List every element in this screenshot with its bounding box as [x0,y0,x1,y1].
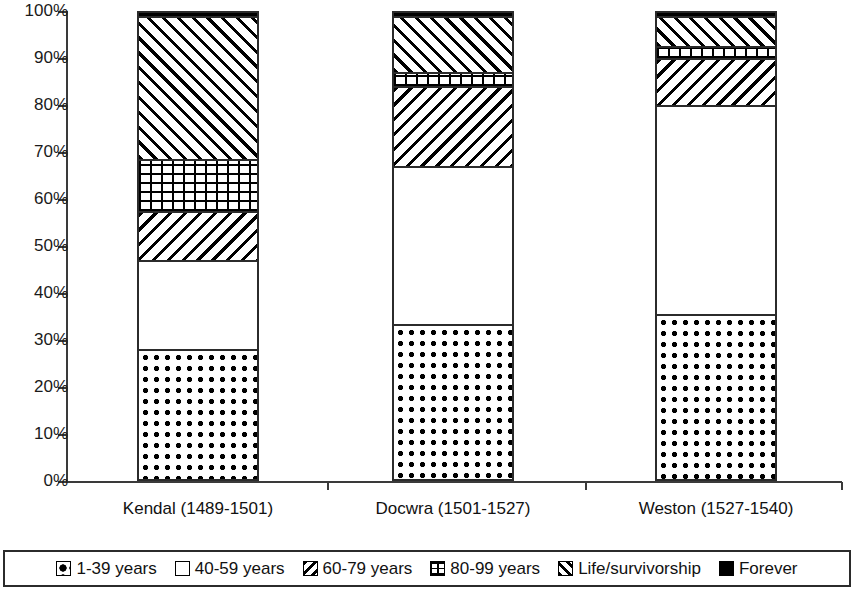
bar-segment [392,11,514,16]
y-tick-label: 40% [14,284,68,301]
bar-segment [655,46,777,58]
bar-segment [655,105,777,314]
x-axis-line [66,481,842,483]
bar-segment [392,72,514,86]
legend-label: 1-39 years [76,560,156,577]
bar-segment [392,86,514,166]
bar-segment [392,166,514,324]
legend-label: Life/survivorship [578,560,701,577]
x-tick-mark [327,482,329,490]
bar-segment [655,58,777,105]
bar-segment [137,16,259,159]
legend-item[interactable]: Life/survivorship [558,560,701,577]
bar-column [392,11,514,481]
y-tick-label: 0% [14,472,68,489]
legend-label: Forever [739,560,798,577]
category-label: Weston (1527-1540) [566,499,856,519]
x-tick-mark [585,482,587,490]
bar-segment [137,159,259,211]
legend-item[interactable]: Forever [719,560,798,577]
slash-hatch-swatch [558,561,573,576]
legend-item[interactable]: 40-59 years [175,560,285,577]
bar-segment [137,211,259,260]
y-tick-label: 60% [14,190,68,207]
bar-segment [655,314,777,481]
bar-segment [655,11,777,16]
y-tick-label: 30% [14,331,68,348]
grid-hatch-swatch [430,561,445,576]
diamond-pattern-swatch [56,561,71,576]
y-tick-label: 90% [14,49,68,66]
y-tick-label: 70% [14,143,68,160]
stacked-bar-chart: 100%90%80%70%60%50%40%30%20%10%0% Kendal… [0,0,856,591]
plain-white-swatch [175,561,190,576]
y-tick-label: 10% [14,425,68,442]
solid-black-swatch [719,561,734,576]
y-tick-label: 50% [14,237,68,254]
legend-label: 40-59 years [195,560,285,577]
x-tick-mark [841,482,843,490]
bar-segment [137,11,259,16]
category-label: Docwra (1501-1527) [303,499,603,519]
legend-item[interactable]: 1-39 years [56,560,156,577]
bar-segment [655,16,777,47]
y-tick-label: 80% [14,96,68,113]
legend-item[interactable]: 60-79 years [303,560,413,577]
y-tick-label: 100% [14,2,68,19]
chart-legend: 1-39 years40-59 years60-79 years80-99 ye… [3,550,851,587]
bar-segment [392,16,514,72]
bar-column [655,11,777,481]
legend-label: 60-79 years [323,560,413,577]
legend-item[interactable]: 80-99 years [430,560,540,577]
y-tick-label: 20% [14,378,68,395]
bar-segment [137,349,259,481]
bar-column [137,11,259,481]
backslash-hatch-swatch [303,561,318,576]
legend-label: 80-99 years [450,560,540,577]
bar-segment [392,324,514,481]
plot-area: 100%90%80%70%60%50%40%30%20%10%0% Kendal… [0,0,856,540]
bar-segment [137,260,259,349]
